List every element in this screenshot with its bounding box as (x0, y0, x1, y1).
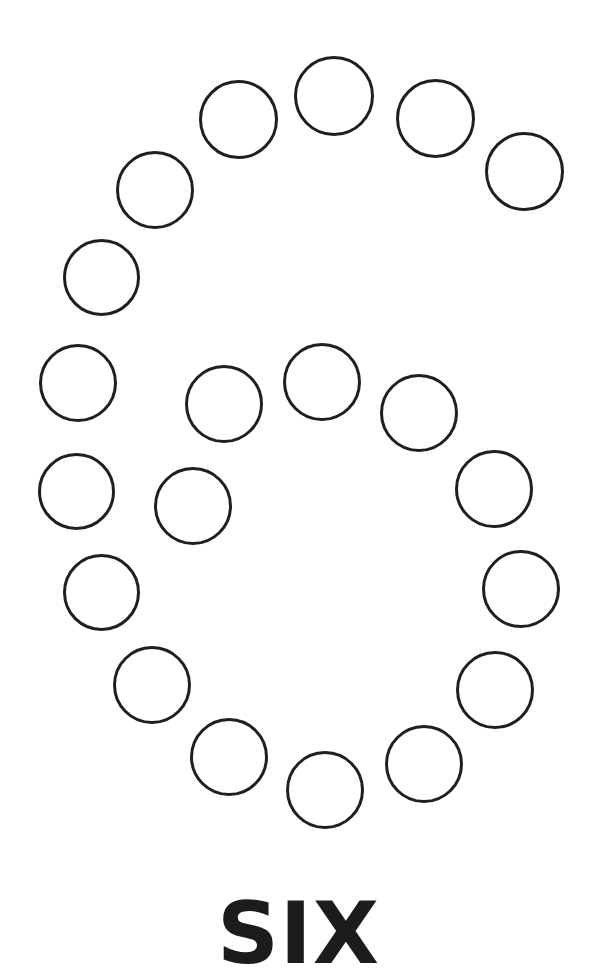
trace-dot[interactable] (283, 343, 361, 421)
trace-dot[interactable] (185, 365, 263, 443)
trace-dot[interactable] (63, 239, 140, 316)
trace-dot[interactable] (154, 467, 232, 545)
trace-dot[interactable] (455, 450, 533, 528)
trace-dot[interactable] (113, 646, 191, 724)
trace-dot[interactable] (38, 453, 115, 530)
trace-dot[interactable] (294, 56, 374, 136)
trace-dot[interactable] (385, 725, 463, 803)
worksheet-page: SIX (0, 0, 597, 976)
trace-dot[interactable] (190, 718, 268, 796)
trace-dot[interactable] (380, 374, 458, 452)
trace-dot[interactable] (485, 132, 564, 211)
trace-dot[interactable] (116, 151, 194, 229)
trace-dot[interactable] (199, 80, 278, 159)
trace-dot[interactable] (396, 79, 475, 158)
number-word-label: SIX (0, 890, 597, 976)
numeral-six-dot-outline (0, 0, 597, 976)
trace-dot[interactable] (456, 651, 534, 729)
trace-dot[interactable] (63, 554, 140, 631)
trace-dot[interactable] (39, 344, 117, 422)
trace-dot[interactable] (286, 751, 364, 829)
trace-dot[interactable] (482, 550, 560, 628)
